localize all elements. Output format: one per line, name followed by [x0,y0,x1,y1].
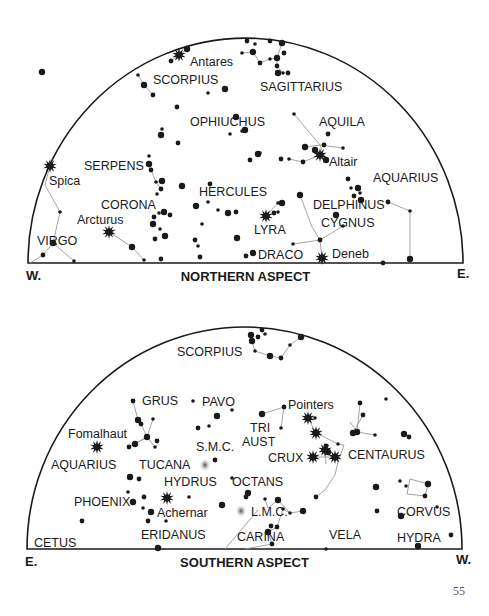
star-dot-icon [346,177,351,182]
star-dot-icon [216,208,220,212]
constellation-line [388,202,410,259]
star-dot-icon [141,82,147,88]
star-dot-icon [298,334,304,340]
constellation-label: VELA [329,528,362,542]
star-dot-icon [179,183,185,189]
star-dot-icon [375,509,380,514]
constellation-label: AQUARIUS [373,171,438,185]
nebula-icon [235,504,247,518]
star-dot-icon [423,494,428,499]
star-dot-icon [240,51,244,55]
star-dot-icon [158,227,162,231]
star-dot-icon [256,335,261,340]
star-dot-icon [275,64,280,69]
star-dot-icon [225,210,231,216]
constellation-label: AQUARIUS [51,458,116,472]
constellation-label: SAGITTARIUS [260,80,342,94]
bright-star-icon [102,225,115,239]
constellation-label: CARINA [237,530,285,544]
star-dot-icon [349,186,353,190]
star-dot-icon [176,141,181,146]
constellation-label: CENTAURUS [348,448,425,462]
star-dot-icon [361,413,366,418]
constellation-label: SCORPIUS [177,345,242,359]
constellation-label: TRI [250,421,270,435]
star-dot-icon [275,70,281,76]
star-dot-icon [267,353,273,359]
star-dot-icon [288,343,292,347]
star-dot-icon [276,210,280,214]
star-dot-icon [206,91,210,95]
constellation-label: LYRA [254,223,286,237]
star-dot-icon [162,233,168,239]
star-dot-icon [291,242,295,246]
star-dot-icon [449,533,454,538]
star-dot-icon [297,192,303,198]
star-dot-icon [282,405,287,410]
star-dot-icon [193,238,198,243]
constellation-label: OPHIUCHUS [190,115,265,129]
constellation-label: DRACO [258,248,303,262]
star-dot-icon [131,399,136,404]
star-dot-icon [142,495,147,500]
star-dot-icon [274,55,280,61]
constellation-label: CORONA [101,198,157,212]
star-dot-icon [255,151,261,157]
star-dot-icon [253,42,257,46]
star-dot-icon [153,237,158,242]
star-dot-icon [200,222,204,226]
star-dot-icon [228,132,232,136]
star-dot-icon [213,458,218,463]
constellation-label: Altair [329,155,357,169]
star-dot-icon [193,203,199,209]
star-dot-icon [58,210,62,214]
star-dot-icon [250,49,256,55]
star-dot-icon [404,484,408,488]
star-dot-icon [127,474,133,480]
star-dot-icon [384,397,388,401]
star-dot-icon [139,422,144,427]
star-dot-icon [249,338,255,344]
star-dot-icon [126,490,130,494]
constellation-label: HYDRUS [164,475,217,489]
star-dot-icon [161,209,167,215]
star-dot-icon [151,417,155,421]
constellation-label: AUST [242,435,276,449]
star-dot-icon [142,258,146,262]
star-dot-icon [269,524,274,529]
star-dot-icon [358,401,363,406]
constellation-label: OCTANS [232,475,283,489]
star-dot-icon [244,495,249,500]
star-dot-icon [222,86,228,92]
constellation-line [308,418,338,444]
star-dot-icon [407,435,412,440]
star-chart-page: AntaresSCORPIUSSAGITTARIUSOPHIUCHUSAQUIL… [0,0,489,616]
constellation-label: CYGNUS [321,216,374,230]
star-dot-icon [169,59,174,64]
horizon-outline [28,38,463,263]
constellation-label: PHOENIX [74,495,131,509]
star-dot-icon [386,200,391,205]
star-dot-icon [301,160,306,165]
star-dot-icon [146,161,152,167]
star-dot-icon [425,481,431,487]
southern-aspect-chart: SCORPIUSGRUSPAVOPointersFomalhautTRIS.M.… [25,327,471,570]
star-dot-icon [132,441,138,447]
star-dot-icon [158,132,164,138]
star-dot-icon [234,210,239,215]
star-dot-icon [401,431,407,437]
star-dot-icon [408,209,412,213]
star-dot-icon [373,433,377,437]
star-dot-icon [244,254,249,259]
star-dot-icon [151,93,156,98]
star-dot-icon [129,244,135,250]
star-dot-icon [358,191,362,195]
star-dot-icon [155,439,160,444]
star-dot-icon [263,332,267,336]
star-dot-icon [381,261,386,266]
constellation-label: Arcturus [77,213,124,227]
star-dot-icon [407,256,413,262]
star-dot-icon [302,144,308,150]
constellation-label: CRUX [268,451,304,465]
constellation-label: SERPENS [84,159,144,173]
